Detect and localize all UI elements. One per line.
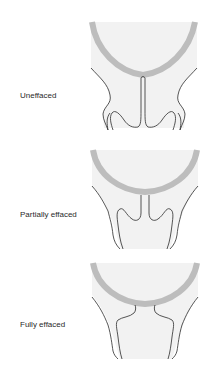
stage-label: Uneffaced <box>20 91 56 100</box>
stage-label: Partially effaced <box>20 210 77 219</box>
stage-fully-effaced: Fully effaced <box>0 255 213 373</box>
tissue-region <box>92 263 198 359</box>
tissue-region <box>92 150 198 249</box>
partially-effaced-diagram <box>0 145 213 255</box>
stage-label: Fully effaced <box>20 320 65 329</box>
uneffaced-diagram <box>0 0 213 135</box>
stage-uneffaced: Uneffaced <box>0 0 213 135</box>
fully-effaced-diagram <box>0 255 213 373</box>
stage-partially-effaced: Partially effaced <box>0 145 213 255</box>
